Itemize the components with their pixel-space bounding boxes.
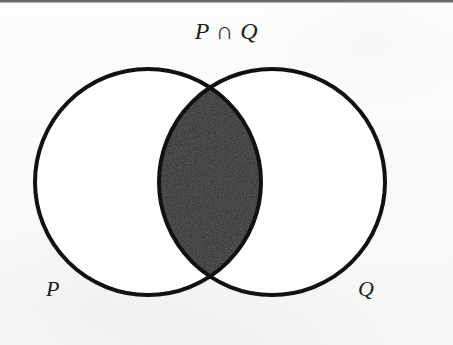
set-label-p: P	[46, 278, 59, 300]
diagram-title: P ∩ Q	[0, 19, 453, 43]
venn-diagram-figure: P ∩ Q P Q	[0, 0, 453, 345]
set-label-q: Q	[358, 278, 374, 300]
venn-diagram-canvas	[0, 0, 453, 345]
